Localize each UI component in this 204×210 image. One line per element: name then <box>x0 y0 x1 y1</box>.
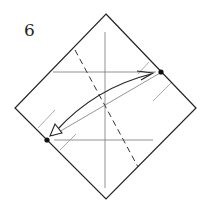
valley-fold-line <box>75 50 138 167</box>
edge-tick <box>38 110 55 128</box>
edge-tick <box>153 83 171 101</box>
edge-tick <box>60 134 76 150</box>
reference-dot-right <box>158 69 163 74</box>
fold-arrow-icon <box>56 74 151 131</box>
reference-dot-left <box>44 137 49 142</box>
origami-diagram <box>0 0 204 210</box>
reference-line <box>52 73 160 136</box>
